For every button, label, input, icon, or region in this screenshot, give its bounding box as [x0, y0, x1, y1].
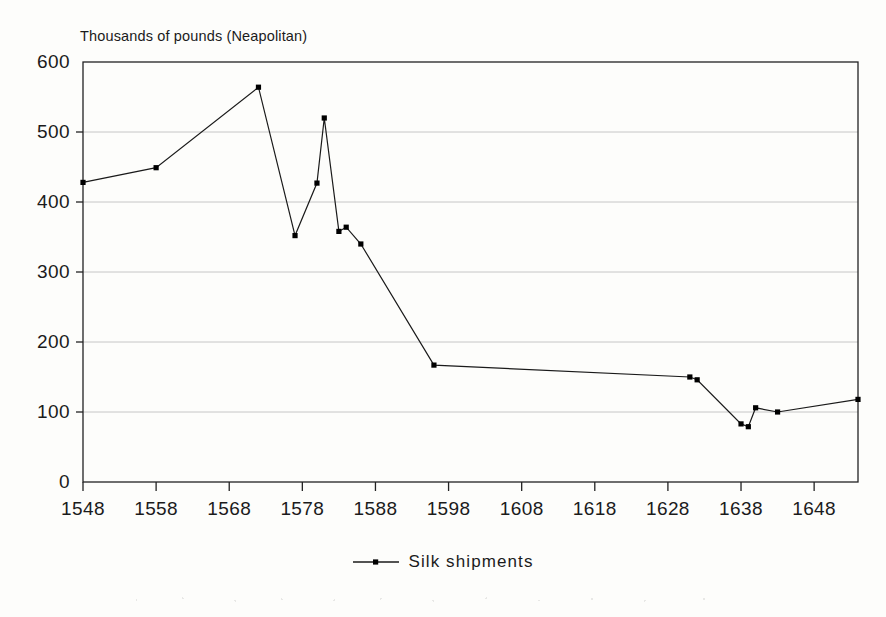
- data-point-marker: [775, 409, 780, 414]
- data-point-marker: [344, 225, 349, 230]
- chart-figure: Thousands of pounds (Neapolitan) 0100200…: [0, 0, 886, 617]
- y-axis-tick-label: 100: [0, 401, 70, 423]
- data-point-marker: [256, 85, 261, 90]
- x-axis-tick-label: 1638: [719, 498, 763, 520]
- scan-artifact: [110, 596, 770, 604]
- x-axis-tick-label: 1588: [354, 498, 398, 520]
- data-point-marker: [855, 397, 860, 402]
- y-axis-tick-label: 0: [0, 471, 70, 493]
- data-point-marker: [154, 165, 159, 170]
- x-axis-tick-label: 1568: [207, 498, 251, 520]
- y-axis-tick-label: 500: [0, 121, 70, 143]
- x-axis-tick-label: 1598: [427, 498, 471, 520]
- data-point-marker: [314, 181, 319, 186]
- x-axis-tick-label: 1628: [646, 498, 690, 520]
- y-axis-tick-label: 600: [0, 51, 70, 73]
- data-point-marker: [753, 405, 758, 410]
- data-point-marker: [687, 374, 692, 379]
- data-point-marker: [80, 180, 85, 185]
- x-axis-tick-label: 1548: [61, 498, 105, 520]
- data-line-silk-shipments: [83, 87, 858, 427]
- x-axis-tick-label: 1558: [134, 498, 178, 520]
- y-axis-tick-label: 300: [0, 261, 70, 283]
- chart-legend: Silk shipments: [0, 552, 886, 572]
- data-point-marker: [336, 229, 341, 234]
- data-point-marker: [746, 424, 751, 429]
- data-point-marker: [738, 421, 743, 426]
- data-point-marker: [431, 363, 436, 368]
- data-point-marker: [322, 115, 327, 120]
- data-point-marker: [358, 241, 363, 246]
- data-point-marker: [695, 377, 700, 382]
- legend-label: Silk shipments: [409, 552, 534, 572]
- x-axis-tick-label: 1578: [280, 498, 324, 520]
- data-point-marker: [292, 233, 297, 238]
- x-axis-tick-label: 1648: [792, 498, 836, 520]
- x-axis-tick-label: 1618: [573, 498, 617, 520]
- x-axis-tick-label: 1608: [500, 498, 544, 520]
- legend-marker-icon: [353, 556, 399, 568]
- plot-area: [0, 0, 886, 617]
- y-axis-tick-label: 400: [0, 191, 70, 213]
- y-axis-tick-label: 200: [0, 331, 70, 353]
